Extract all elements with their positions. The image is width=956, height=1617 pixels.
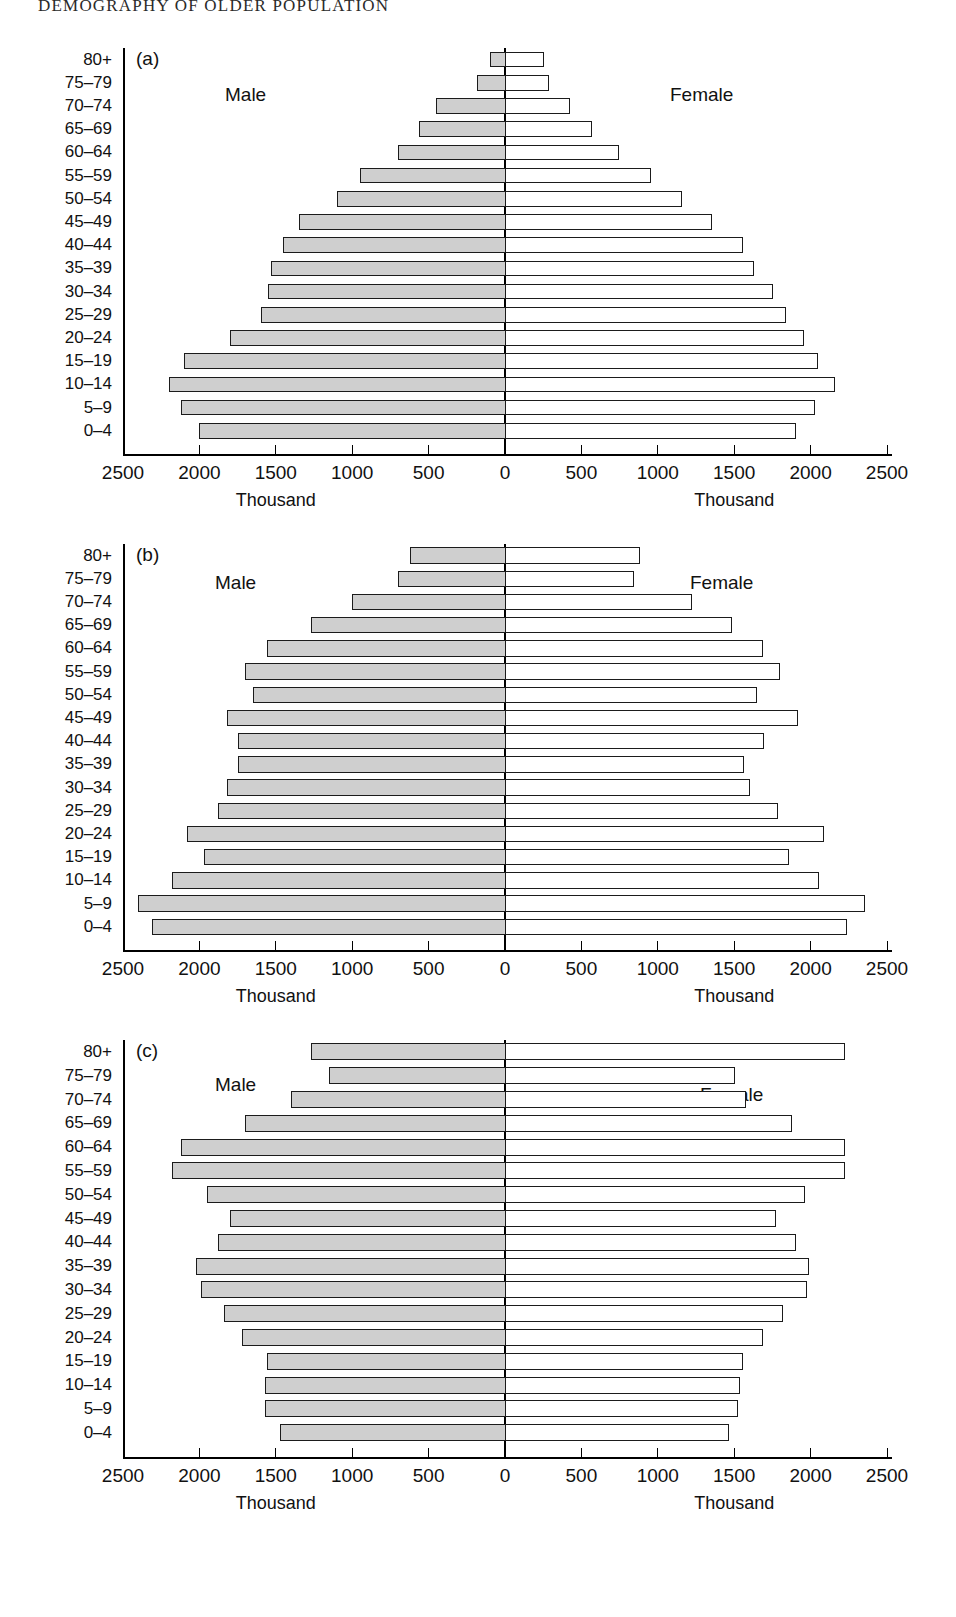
female-bar [505, 1281, 807, 1298]
x-axis-tick-label: 2000 [789, 1465, 831, 1487]
x-axis-tick [657, 445, 658, 454]
x-axis-tick-label: 1000 [637, 1465, 679, 1487]
female-bar [505, 191, 682, 207]
age-group-label: 45–49 [65, 213, 112, 230]
age-group-label: 5–9 [84, 399, 112, 416]
male-bar [265, 1400, 506, 1417]
male-bar [224, 1305, 506, 1322]
female-bar [505, 895, 865, 912]
female-bar [505, 1091, 746, 1108]
x-axis-tick [887, 1448, 888, 1457]
x-axis-tick [581, 1448, 582, 1457]
female-bar [505, 52, 544, 68]
age-group-axis: 80+75–7970–7465–6960–6455–5950–5445–4940… [0, 530, 112, 1030]
female-bar [505, 75, 549, 91]
x-axis-tick [505, 445, 506, 454]
male-bar [172, 872, 506, 889]
female-bar [505, 1139, 845, 1156]
male-bar [169, 377, 506, 393]
male-bar [265, 1377, 506, 1394]
male-series-label: Male [225, 84, 266, 106]
age-group-label: 75–79 [65, 1067, 112, 1084]
age-group-label: 50–54 [65, 1186, 112, 1203]
male-bar [227, 779, 506, 796]
male-bar [181, 400, 506, 416]
male-bar [204, 849, 506, 866]
female-bar [505, 779, 750, 796]
x-axis-tick [887, 941, 888, 950]
male-bar [184, 353, 506, 369]
panel-label-b: (b) [136, 544, 159, 566]
x-axis-tick-label: 1500 [713, 958, 755, 980]
male-bar [410, 547, 506, 564]
x-axis-tick [123, 445, 124, 454]
x-axis-tick-label: 0 [500, 1465, 511, 1487]
x-axis-line [123, 950, 892, 952]
female-bar [505, 353, 818, 369]
age-group-label: 60–64 [65, 639, 112, 656]
pyramid-panel-a: 250020001500100050005001000150020002500T… [0, 34, 956, 534]
x-axis-tick-label: 2500 [866, 958, 908, 980]
male-bar [283, 237, 506, 253]
x-axis-tick-label: 1500 [255, 958, 297, 980]
male-bar [490, 52, 506, 68]
female-bar [505, 261, 754, 277]
female-bar [505, 640, 763, 657]
age-group-label: 5–9 [84, 895, 112, 912]
male-bar [242, 1329, 506, 1346]
x-axis-line [123, 454, 892, 456]
age-group-label: 40–44 [65, 1233, 112, 1250]
female-bar [505, 919, 847, 936]
male-bar [360, 168, 506, 184]
male-bar [299, 214, 506, 230]
x-axis-tick-label: 1000 [637, 958, 679, 980]
age-group-label: 55–59 [65, 167, 112, 184]
female-bar [505, 377, 835, 393]
x-axis-tick-label: 500 [566, 462, 598, 484]
male-bar [187, 826, 506, 843]
age-group-label: 0–4 [84, 422, 112, 439]
x-axis-line [123, 1457, 892, 1459]
age-group-label: 55–59 [65, 663, 112, 680]
age-group-label: 30–34 [65, 283, 112, 300]
x-axis-tick [275, 941, 276, 950]
male-bar [201, 1281, 506, 1298]
male-bar [172, 1162, 506, 1179]
age-group-axis: 80+75–7970–7465–6960–6455–5950–5445–4940… [0, 34, 112, 534]
age-group-label: 35–39 [65, 755, 112, 772]
y-axis-spine [123, 544, 125, 950]
female-bar [505, 284, 773, 300]
female-bar [505, 214, 712, 230]
x-axis-tick [428, 941, 429, 950]
female-bar [505, 1377, 740, 1394]
x-axis-tick-label: 500 [413, 958, 445, 980]
male-bar [436, 98, 506, 114]
age-group-axis: 80+75–7970–7465–6960–6455–5950–5445–4940… [0, 1026, 112, 1606]
age-group-label: 80+ [83, 547, 112, 564]
x-axis-tick [657, 941, 658, 950]
age-group-label: 15–19 [65, 1352, 112, 1369]
male-bar [230, 1210, 506, 1227]
pyramid-panel-b: 250020001500100050005001000150020002500T… [0, 530, 956, 1030]
x-axis-tick [505, 1448, 506, 1457]
x-axis-tick [734, 941, 735, 950]
male-bar [271, 261, 506, 277]
female-bar [505, 849, 789, 866]
male-bar [291, 1091, 506, 1108]
pyramid-panel-c: 250020001500100050005001000150020002500T… [0, 1026, 956, 1606]
female-bar [505, 1353, 743, 1370]
x-axis-caption-female: Thousand [694, 490, 774, 511]
male-bar [477, 75, 506, 91]
x-axis-tick-label: 1000 [331, 958, 373, 980]
female-bar [505, 872, 819, 889]
male-bar [207, 1186, 506, 1203]
male-bar [245, 1115, 506, 1132]
age-group-label: 35–39 [65, 259, 112, 276]
x-axis-tick-label: 2000 [789, 958, 831, 980]
x-axis-tick-label: 2000 [178, 1465, 220, 1487]
male-bar [268, 284, 506, 300]
age-group-label: 65–69 [65, 1114, 112, 1131]
x-axis-caption-male: Thousand [236, 490, 316, 511]
x-axis-tick-label: 500 [566, 958, 598, 980]
age-group-label: 10–14 [65, 375, 112, 392]
